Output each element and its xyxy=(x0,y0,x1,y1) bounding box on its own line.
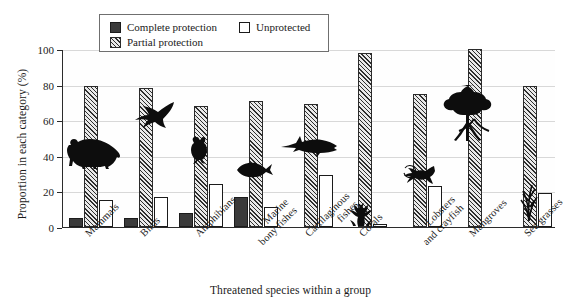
bar xyxy=(139,88,153,227)
y-tick-label: 0 xyxy=(28,223,54,234)
chart-figure: Proportion in each category (%) 02040608… xyxy=(0,0,581,302)
bar-group xyxy=(179,50,223,227)
legend-item-unprotected: Unprotected xyxy=(239,21,310,33)
bar xyxy=(249,101,263,227)
bar-group xyxy=(69,50,113,227)
legend-label: Complete protection xyxy=(127,21,217,33)
bar-group xyxy=(508,50,552,227)
legend-swatch-icon xyxy=(239,22,250,33)
y-tick-label: 80 xyxy=(28,81,54,92)
bar-group xyxy=(124,50,168,227)
bar xyxy=(179,213,193,227)
legend-label: Unprotected xyxy=(256,21,310,33)
y-tick-label: 60 xyxy=(28,116,54,127)
chart-legend: Complete protection Partial protection U… xyxy=(99,14,329,52)
y-tick-label: 20 xyxy=(28,187,54,198)
bar xyxy=(124,218,138,227)
bar xyxy=(304,104,318,227)
bar-group xyxy=(453,50,497,227)
bar xyxy=(413,94,427,228)
bar xyxy=(523,86,537,227)
bar xyxy=(84,86,98,227)
bar-group xyxy=(234,50,278,227)
y-tick-label: 100 xyxy=(28,45,54,56)
bar xyxy=(468,49,482,227)
bar-group xyxy=(289,50,333,227)
legend-swatch-icon xyxy=(110,22,121,33)
bar xyxy=(194,106,208,227)
y-tick-label: 40 xyxy=(28,152,54,163)
bar-group xyxy=(398,50,442,227)
y-tick-mark xyxy=(57,228,62,229)
legend-item-partial-protection: Partial protection xyxy=(110,36,203,48)
legend-swatch-icon xyxy=(110,37,121,48)
bar xyxy=(358,53,372,227)
legend-label: Partial protection xyxy=(127,36,203,48)
bar xyxy=(69,218,83,227)
x-axis-title: Threatened species within a group xyxy=(0,284,581,296)
legend-item-complete-protection: Complete protection xyxy=(110,21,217,33)
y-axis-title: Proportion in each category (%) xyxy=(16,44,28,244)
plot-area xyxy=(62,50,555,228)
